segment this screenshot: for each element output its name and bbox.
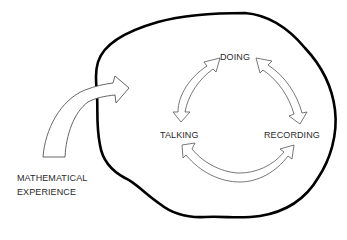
input-label-line1: MATHEMATICAL — [17, 171, 87, 185]
node-label-talking: TALKING — [160, 131, 199, 140]
arrow-talking-doing — [173, 58, 220, 122]
arrow-talking-recording — [182, 143, 294, 182]
node-label-recording: RECORDING — [264, 131, 320, 140]
input-arrow — [43, 76, 129, 157]
input-label: MATHEMATICAL EXPERIENCE — [17, 171, 87, 199]
arrow-doing-recording — [256, 58, 307, 124]
input-label-line2: EXPERIENCE — [17, 185, 87, 199]
node-label-doing: DOING — [220, 53, 250, 62]
